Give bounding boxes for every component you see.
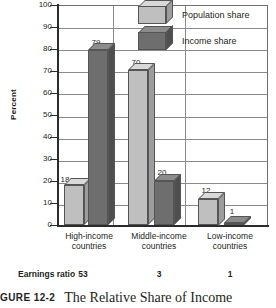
y-tick-40: 40 <box>26 133 52 141</box>
swatch-front-face <box>138 6 166 24</box>
category-line-2: countries <box>117 241 201 251</box>
bar-side-face <box>174 174 181 225</box>
y-tick-100: 100 <box>26 1 52 9</box>
y-tick-60: 60 <box>26 89 52 97</box>
y-axis-tick-labels: 100 90 80 70 60 50 40 30 20 10 0 <box>22 0 52 240</box>
bar-front-face <box>128 70 148 225</box>
category-line-1: Middle-income <box>117 231 201 241</box>
y-tickmark-70 <box>50 71 58 72</box>
figure-container: 100 90 80 70 60 50 40 30 20 10 0 Percent… <box>0 0 276 308</box>
figure-title: The Relative Share of Income <box>64 290 232 305</box>
bar-value-income-low: 1 <box>222 208 242 216</box>
bar-income-middle-income <box>154 181 174 225</box>
y-tick-70: 70 <box>26 67 52 75</box>
figure-caption: GURE 12-2The Relative Share of Income <box>0 290 276 305</box>
y-tick-30: 30 <box>26 155 52 163</box>
bar-population-low-income <box>198 199 218 226</box>
y-tick-50: 50 <box>26 111 52 119</box>
y-tick-80: 80 <box>26 45 52 53</box>
y-tickmark-10 <box>50 203 58 204</box>
category-line-2: countries <box>192 241 268 251</box>
bar-side-face <box>108 43 115 225</box>
bar-front-face <box>154 181 174 225</box>
bar-front-face <box>88 50 108 225</box>
y-tickmark-100 <box>50 5 58 6</box>
legend-label-income-share: Income share <box>182 36 237 46</box>
figure-number: GURE 12-2 <box>0 292 55 303</box>
y-tickmark-80 <box>50 49 58 50</box>
earnings-ratio-value-high: 53 <box>63 269 103 279</box>
earnings-ratio-value-low: 1 <box>210 269 250 279</box>
y-tick-0: 0 <box>26 221 52 229</box>
category-label-low-income: Low-income countries <box>192 231 268 251</box>
y-tick-90: 90 <box>26 23 52 31</box>
bar-front-face <box>64 185 84 225</box>
bar-population-high-income <box>64 185 84 225</box>
legend-swatch-income-share <box>138 32 166 50</box>
bar-front-face <box>224 223 244 225</box>
bar-income-high-income <box>88 50 108 225</box>
bar-income-low-income <box>224 223 244 225</box>
y-tickmark-90 <box>50 27 58 28</box>
legend-label-population-share: Population share <box>182 10 250 20</box>
category-line-1: Low-income <box>192 231 268 241</box>
category-label-middle-income: Middle-income countries <box>117 231 201 251</box>
bar-front-face <box>198 199 218 226</box>
x-axis-baseline <box>57 225 269 227</box>
y-tickmark-30 <box>50 159 58 160</box>
earnings-ratio-value-middle: 3 <box>139 269 179 279</box>
swatch-front-face <box>138 32 166 50</box>
bar-population-middle-income <box>128 70 148 225</box>
y-tick-10: 10 <box>26 199 52 207</box>
y-tick-20: 20 <box>26 177 52 185</box>
legend-swatch-population-share <box>138 6 166 24</box>
y-tickmark-60 <box>50 93 58 94</box>
y-axis-title: Percent <box>9 75 18 135</box>
y-tickmark-40 <box>50 137 58 138</box>
y-tickmark-50 <box>50 115 58 116</box>
y-tickmark-0 <box>50 225 58 226</box>
